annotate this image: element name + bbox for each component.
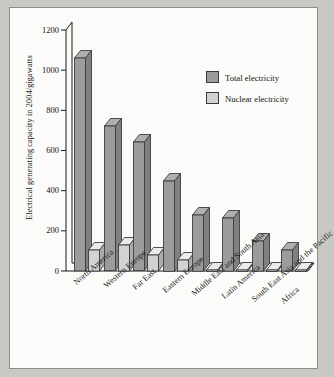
bar-total-0 <box>74 50 91 271</box>
bar-shape <box>74 50 93 273</box>
legend-label-1: Nuclear electricity <box>225 94 289 104</box>
legend-label-0: Total electricity <box>225 73 279 83</box>
figure-frame: Electrical generating capacity in 2004/g… <box>9 7 318 369</box>
plot-area: Electrical generating capacity in 2004/g… <box>10 8 319 370</box>
legend-swatch-1 <box>206 92 219 104</box>
legend-swatch-0 <box>206 71 219 83</box>
